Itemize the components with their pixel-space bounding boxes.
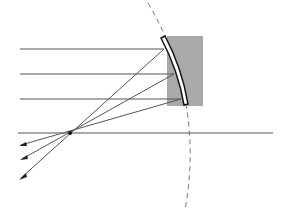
reflected-rays xyxy=(21,49,181,178)
reflected-ray xyxy=(21,49,164,178)
arrow-icon xyxy=(20,155,28,160)
focal-point xyxy=(68,131,72,135)
reflected-ray xyxy=(22,74,174,159)
mirror-diagram xyxy=(0,0,284,211)
arrowheads xyxy=(19,142,28,180)
arrow-icon xyxy=(19,142,27,146)
arrow-icon xyxy=(19,173,27,180)
incident-rays xyxy=(20,49,181,99)
